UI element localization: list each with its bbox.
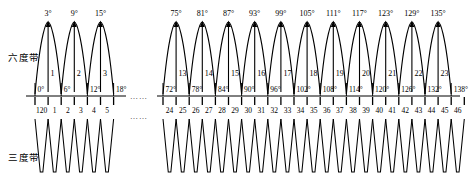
three-degree-number-36: 36 [323, 106, 331, 115]
three-degree-number-35: 35 [310, 106, 318, 115]
three-degree-number-24: 24 [166, 106, 174, 115]
three-degree-number-5: 5 [105, 106, 109, 115]
zone-boundary-label-r7: 114° [349, 85, 363, 94]
three-degree-zone-right-1 [176, 119, 189, 172]
zone-number-22: 22 [414, 69, 422, 78]
three-degree-number-40: 40 [375, 106, 383, 115]
three-degree-zone-right-17 [386, 119, 399, 172]
zone-number-2: 2 [77, 69, 81, 78]
ellipsis-lower: …… [130, 112, 148, 121]
three-degree-zone-right-10 [294, 119, 307, 172]
three-degree-number-28: 28 [218, 106, 226, 115]
three-degree-zone-left-0 [35, 119, 48, 172]
zone-boundary-label-2: 12° [90, 85, 101, 94]
three-degree-zone-right-16 [373, 119, 386, 172]
three-degree-number-2: 2 [66, 106, 70, 115]
zone-boundary-label-r5: 102° [297, 85, 311, 94]
zone-number-15: 15 [231, 69, 239, 78]
zone-number-19: 19 [336, 69, 344, 78]
three-degree-zone-right-8 [268, 119, 281, 172]
three-degree-zone-left-2 [61, 119, 74, 172]
three-degree-zone-right-22 [451, 119, 464, 172]
three-degree-number-43: 43 [415, 106, 423, 115]
three-degree-zone-right-3 [202, 119, 215, 172]
three-degree-zone-right-5 [229, 119, 242, 172]
zone-boundary-label-r0: 72° [166, 85, 177, 94]
three-degree-zone-left-3 [74, 119, 87, 172]
three-degree-zone-right-11 [307, 119, 320, 172]
zone-boundary-label-r11: 138° [454, 85, 468, 94]
zone-boundary-label-r1: 78° [192, 85, 203, 94]
zone-number-16: 16 [257, 69, 265, 78]
zone-number-21: 21 [388, 69, 396, 78]
zone-boundary-label-3: 18° [116, 85, 127, 94]
three-degree-number-29: 29 [231, 106, 239, 115]
three-degree-number-45: 45 [441, 106, 449, 115]
three-degree-number-120: 120 [36, 106, 47, 115]
three-degree-zone-right-0 [163, 119, 176, 172]
zone-number-3: 3 [103, 69, 107, 78]
three-degree-number-42: 42 [402, 106, 410, 115]
central-meridian-label-17: 99° [275, 9, 286, 18]
three-degree-number-44: 44 [428, 106, 436, 115]
zone-number-20: 20 [362, 69, 370, 78]
central-meridian-label-23: 135° [430, 9, 445, 18]
three-degree-zone-right-21 [438, 119, 451, 172]
three-degree-number-27: 27 [205, 106, 213, 115]
central-meridian-label-3: 15° [95, 9, 106, 18]
three-degree-zone-right-9 [281, 119, 294, 172]
row-label-three-degree: 三度带 [8, 150, 40, 164]
three-degree-zone-right-15 [360, 119, 373, 172]
zone-number-17: 17 [283, 69, 291, 78]
three-degree-zone-right-18 [399, 119, 412, 172]
three-degree-number-31: 31 [258, 106, 266, 115]
central-meridian-label-14: 81° [197, 9, 208, 18]
three-degree-zone-left-1 [48, 119, 61, 172]
three-degree-zone-left-5 [101, 119, 114, 172]
central-meridian-label-19: 111° [326, 9, 341, 18]
three-degree-zone-right-4 [215, 119, 228, 172]
zone-boundary-label-r8: 120° [375, 85, 389, 94]
zone-number-18: 18 [310, 69, 318, 78]
three-degree-zone-right-6 [242, 119, 255, 172]
central-meridian-label-18: 105° [299, 9, 314, 18]
three-degree-zone-right-19 [412, 119, 425, 172]
zone-number-13: 13 [179, 69, 187, 78]
three-degree-number-3: 3 [79, 106, 83, 115]
three-degree-zone-right-13 [333, 119, 346, 172]
three-degree-number-41: 41 [389, 106, 397, 115]
three-degree-number-33: 33 [284, 106, 292, 115]
zone-boundary-label-r4: 96° [270, 85, 281, 94]
central-meridian-label-20: 117° [352, 9, 367, 18]
central-meridian-label-2: 9° [71, 9, 78, 18]
three-degree-zone-right-14 [346, 119, 359, 172]
row-label-six-degree: 六度带 [8, 50, 40, 64]
central-meridian-label-16: 93° [249, 9, 260, 18]
three-degree-number-1: 1 [53, 106, 57, 115]
zone-boundary-label-0: 0° [38, 85, 45, 94]
three-degree-number-34: 34 [297, 106, 305, 115]
central-meridian-label-13: 75° [170, 9, 181, 18]
three-degree-zone-right-2 [189, 119, 202, 172]
three-degree-number-32: 32 [271, 106, 279, 115]
central-meridian-label-1: 3° [44, 9, 51, 18]
central-meridian-label-22: 129° [404, 9, 419, 18]
zone-boundary-label-r2: 84° [218, 85, 229, 94]
zone-boundary-label-r9: 126° [401, 85, 415, 94]
three-degree-number-4: 4 [92, 106, 96, 115]
zone-boundary-label-1: 6° [64, 85, 71, 94]
three-degree-number-38: 38 [349, 106, 357, 115]
zone-number-1: 1 [51, 69, 55, 78]
zone-number-23: 23 [441, 69, 449, 78]
three-degree-number-26: 26 [192, 106, 200, 115]
three-degree-number-37: 37 [336, 106, 344, 115]
three-degree-zone-right-20 [425, 119, 438, 172]
projection-zone-diagram: 六度带 三度带 …… …… 3°19°215°30°6°12°18°75°138… [0, 0, 471, 187]
zone-boundary-label-r6: 108° [323, 85, 337, 94]
zone-boundary-label-r3: 90° [244, 85, 255, 94]
central-meridian-label-15: 87° [223, 9, 234, 18]
three-degree-number-30: 30 [244, 106, 252, 115]
central-meridian-label-21: 123° [378, 9, 393, 18]
three-degree-zone-right-7 [255, 119, 268, 172]
ellipsis-upper: …… [130, 92, 148, 101]
